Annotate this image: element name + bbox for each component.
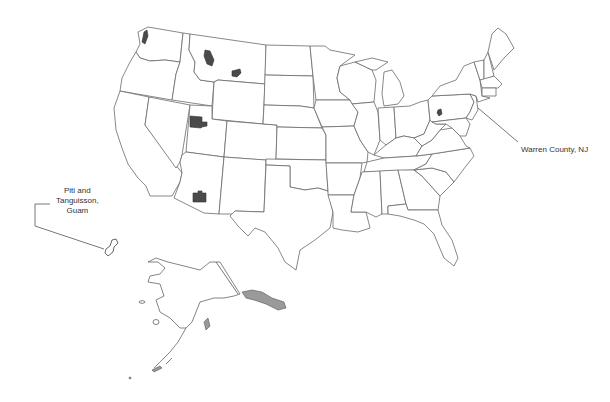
alaska-kodiak [204,318,210,330]
nj-label: Warren County, NJ [521,145,588,155]
state-new-mexico [219,157,266,214]
state-alaska [148,258,240,328]
state-north-dakota [265,45,313,76]
state-colorado [224,121,277,161]
state-connecticut [482,88,496,96]
guam-island-icon [105,239,118,256]
state-nebraska [263,105,322,128]
state-maine [488,28,514,70]
state-wyoming [212,80,265,124]
alaska-panhandle [242,290,286,310]
alaska-island [153,320,159,325]
state-iowa [314,100,358,127]
guam-label-line1: Piti and [56,186,99,196]
guam-label-line2: Tanguisson, [56,196,99,206]
state-arizona [174,152,224,214]
state-south-dakota [264,75,314,108]
contiguous-us [114,27,514,270]
state-montana [189,34,266,84]
alaska-peninsula [154,328,186,368]
state-indiana [378,107,396,145]
guam-label: Piti and Tanguisson, Guam [56,186,99,216]
guam-label-line3: Guam [56,206,99,216]
state-washington [136,27,183,62]
aleutian-islands [152,366,162,372]
nj-leader-line [478,108,518,142]
alaska-island-2 [139,301,145,304]
alaska-inset [129,258,286,379]
state-kansas [276,127,326,160]
aleutian-island [129,377,131,379]
state-florida [388,204,458,266]
